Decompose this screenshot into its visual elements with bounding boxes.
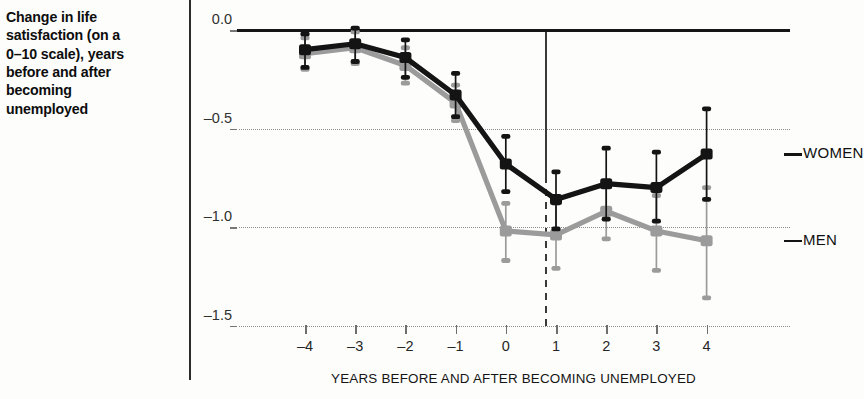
error-bar-cap: [401, 37, 410, 42]
error-bar-cap: [401, 75, 410, 80]
error-bar-cap: [300, 32, 309, 37]
error-bar-cap: [602, 236, 611, 241]
data-point-marker: [450, 90, 462, 101]
error-bar-cap: [652, 268, 661, 273]
error-bar-cap: [451, 71, 460, 76]
error-bar-cap: [401, 81, 410, 86]
error-bar-cap: [551, 227, 560, 232]
data-point-marker: [701, 235, 713, 246]
legend-dash-men: [784, 240, 802, 243]
data-point-marker: [701, 149, 713, 160]
data-point-marker: [500, 225, 512, 236]
data-point-marker: [650, 182, 662, 193]
error-bar-cap: [501, 189, 510, 194]
error-bar-cap: [652, 150, 661, 155]
error-bar-cap: [702, 197, 711, 202]
error-bar-cap: [602, 217, 611, 222]
error-bar-cap: [702, 106, 711, 111]
error-bar-cap: [551, 266, 560, 271]
x-axis-title: YEARS BEFORE AND AFTER BECOMING UNEMPLOY…: [237, 371, 790, 386]
error-bar-cap: [501, 201, 510, 206]
data-point-marker: [550, 194, 562, 205]
error-bar-cap: [451, 114, 460, 119]
error-bar-cap: [652, 219, 661, 224]
data-point-marker: [349, 38, 361, 49]
data-point-marker: [299, 44, 311, 55]
legend-label-men: MEN: [803, 231, 837, 248]
error-bar-cap: [351, 26, 360, 31]
error-bar-cap: [602, 146, 611, 151]
error-bar-cap: [300, 65, 309, 70]
data-point-marker: [650, 225, 662, 236]
error-bar-cap: [351, 59, 360, 64]
legend-label-women: WOMEN: [803, 144, 864, 161]
error-bar-cap: [702, 296, 711, 301]
data-point-marker: [399, 52, 411, 63]
error-bar-cap: [551, 169, 560, 174]
error-bar-cap: [501, 134, 510, 139]
data-point-marker: [600, 178, 612, 189]
error-bar-cap: [501, 258, 510, 263]
series-women: [299, 26, 713, 232]
legend-dash-women: [784, 153, 802, 156]
data-point-marker: [500, 158, 512, 169]
